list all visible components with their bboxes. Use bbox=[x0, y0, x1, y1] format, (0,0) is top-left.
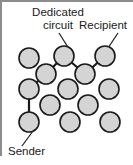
dedicated-circuit-label-line2: circuit bbox=[43, 19, 74, 31]
recipient-label: Recipient bbox=[79, 19, 128, 31]
node-relay bbox=[100, 112, 120, 132]
node-circuit-hop bbox=[19, 79, 39, 99]
node-relay bbox=[99, 79, 119, 99]
network-diagram-figure: Dedicated circuit Recipient Sender bbox=[0, 0, 133, 165]
sender-label: Sender bbox=[8, 145, 45, 157]
node-relay bbox=[19, 48, 39, 68]
node-circuit-hop bbox=[75, 64, 95, 84]
dedicated-circuit-label-line1: Dedicated bbox=[32, 6, 84, 18]
node-circuit-hop bbox=[54, 46, 74, 66]
node-relay bbox=[60, 112, 80, 132]
node-relay bbox=[40, 95, 60, 115]
node-recipient bbox=[95, 46, 115, 66]
node-circuit-hop bbox=[36, 64, 56, 84]
recipient-leader-line bbox=[108, 33, 118, 48]
node-relay bbox=[78, 95, 98, 115]
node-relay bbox=[58, 79, 78, 99]
node-sender bbox=[19, 112, 39, 132]
sender-leader-line bbox=[22, 131, 33, 146]
circuit-diagram-svg: Dedicated circuit Recipient Sender bbox=[0, 0, 133, 165]
